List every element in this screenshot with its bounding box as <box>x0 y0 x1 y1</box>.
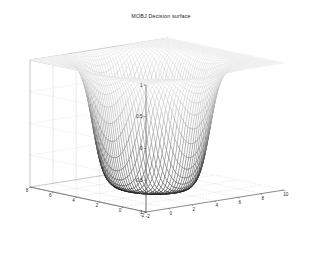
svg-text:1: 1 <box>140 83 143 88</box>
svg-text:10: 10 <box>283 192 289 197</box>
svg-text:8: 8 <box>26 188 29 193</box>
svg-text:-2: -2 <box>146 214 151 219</box>
svg-text:4: 4 <box>216 203 219 208</box>
svg-text:0.5: 0.5 <box>136 114 143 119</box>
matlab-figure-window: MOBJ Decision surface -1-0.500.51-202468… <box>0 0 322 257</box>
svg-text:6: 6 <box>49 193 52 198</box>
svg-text:-2: -2 <box>140 213 145 218</box>
svg-text:0: 0 <box>170 211 173 216</box>
svg-text:0: 0 <box>140 146 143 151</box>
mesh-surface <box>30 38 284 194</box>
svg-text:6: 6 <box>239 200 242 205</box>
svg-text:8: 8 <box>262 196 265 201</box>
svg-text:2: 2 <box>193 207 196 212</box>
svg-text:0: 0 <box>119 208 122 213</box>
svg-text:2: 2 <box>95 203 98 208</box>
svg-text:4: 4 <box>72 198 75 203</box>
svg-text:-0.5: -0.5 <box>135 178 143 183</box>
axes-3d-plot: -1-0.500.51-202468-20246810 <box>0 0 322 257</box>
